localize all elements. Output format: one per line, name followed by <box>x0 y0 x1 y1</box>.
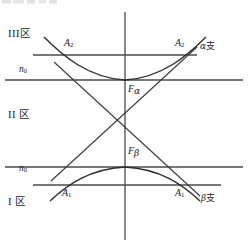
asymptote-up-right <box>51 47 197 181</box>
asymptote-down-right <box>54 62 200 196</box>
figure-canvas <box>0 0 250 249</box>
hyperbola-figure: III区 II 区 I 区 n0 n0 A2 A2 A1 A1 Fα Fβ α支… <box>0 0 250 249</box>
